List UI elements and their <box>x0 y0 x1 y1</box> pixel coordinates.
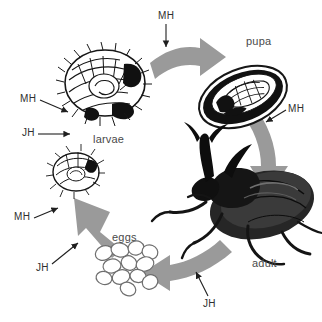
hormone-label-mh-right: MH <box>288 104 304 114</box>
pointer-jh-eggs <box>52 243 78 264</box>
metamorphosis-diagram: eggs larvae pupa adult MH MH MH JH MH JH… <box>0 0 322 322</box>
hormone-label-mh-lower-left: MH <box>14 212 30 222</box>
stage-label-eggs: eggs <box>112 232 137 243</box>
stage-label-pupa: pupa <box>246 36 271 47</box>
hormone-pointer-arrows-layer <box>0 0 322 322</box>
pointer-jh-bottom <box>196 272 208 296</box>
hormone-label-jh-eggs: JH <box>36 263 49 273</box>
hormone-label-jh-bottom: JH <box>203 299 216 309</box>
stage-label-larvae: larvae <box>93 134 124 145</box>
hormone-label-mh-larvae-upper: MH <box>20 94 36 104</box>
pointer-mh-right <box>266 110 286 122</box>
hormone-label-jh-larvae: JH <box>22 128 35 138</box>
pointer-mh-lower-left <box>34 208 58 218</box>
pointer-mh-larvae-upper <box>40 100 68 112</box>
stage-label-adult: adult <box>252 258 277 269</box>
hormone-label-mh-top: MH <box>158 11 174 21</box>
